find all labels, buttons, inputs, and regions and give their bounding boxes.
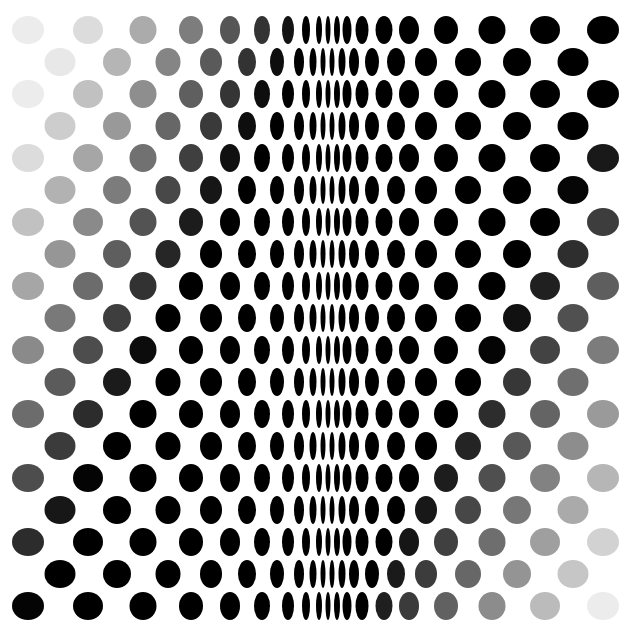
dot bbox=[294, 304, 304, 332]
dot bbox=[310, 48, 317, 76]
dot bbox=[302, 400, 310, 428]
dot bbox=[316, 16, 322, 44]
dot bbox=[130, 80, 157, 108]
dot bbox=[339, 176, 346, 204]
dot bbox=[387, 432, 405, 460]
dot bbox=[503, 176, 531, 204]
dot bbox=[387, 496, 405, 524]
dot bbox=[302, 592, 310, 620]
dot bbox=[73, 272, 103, 300]
dot bbox=[479, 400, 506, 428]
dot bbox=[45, 304, 76, 332]
dot bbox=[310, 176, 317, 204]
dot bbox=[200, 368, 222, 396]
dot bbox=[73, 336, 103, 364]
dot bbox=[200, 304, 222, 332]
dot bbox=[587, 400, 619, 428]
dot bbox=[558, 304, 589, 332]
dot bbox=[349, 112, 359, 140]
dot bbox=[415, 560, 437, 588]
op-art-artwork: Op-art dot field bbox=[0, 0, 637, 632]
dot bbox=[376, 592, 393, 620]
dot bbox=[349, 176, 359, 204]
dot bbox=[45, 48, 76, 76]
dot bbox=[558, 240, 589, 268]
dot bbox=[45, 560, 76, 588]
dot bbox=[270, 48, 284, 76]
dot bbox=[220, 208, 240, 236]
dot bbox=[455, 496, 481, 524]
dot bbox=[349, 496, 359, 524]
dot bbox=[254, 80, 270, 108]
dot bbox=[238, 176, 256, 204]
dot bbox=[321, 432, 326, 460]
dot bbox=[220, 80, 240, 108]
dot bbox=[156, 240, 181, 268]
dot bbox=[103, 176, 131, 204]
dot bbox=[530, 336, 560, 364]
dot bbox=[254, 208, 270, 236]
dot bbox=[220, 16, 240, 44]
dot bbox=[103, 496, 131, 524]
dot bbox=[156, 496, 181, 524]
dot bbox=[399, 464, 419, 492]
dot bbox=[45, 240, 76, 268]
dot bbox=[321, 48, 326, 76]
dot bbox=[530, 528, 560, 556]
dot bbox=[356, 272, 369, 300]
dot bbox=[220, 336, 240, 364]
dot bbox=[343, 144, 352, 172]
dot bbox=[45, 432, 76, 460]
dot bbox=[156, 432, 181, 460]
dot bbox=[156, 304, 181, 332]
dot bbox=[455, 112, 481, 140]
dot bbox=[343, 16, 352, 44]
dot bbox=[238, 48, 256, 76]
dot bbox=[343, 208, 352, 236]
dot bbox=[282, 144, 294, 172]
dot bbox=[330, 48, 335, 76]
dot bbox=[316, 464, 322, 492]
dot bbox=[558, 560, 589, 588]
dot bbox=[310, 432, 317, 460]
dot bbox=[321, 112, 326, 140]
dot bbox=[558, 112, 589, 140]
dot bbox=[479, 208, 506, 236]
dot bbox=[334, 400, 340, 428]
dot bbox=[349, 240, 359, 268]
dot bbox=[356, 80, 369, 108]
dot bbox=[103, 48, 131, 76]
dot bbox=[200, 112, 222, 140]
dot bbox=[415, 176, 437, 204]
dot bbox=[365, 240, 379, 268]
dot bbox=[270, 496, 284, 524]
dot bbox=[254, 272, 270, 300]
dot bbox=[455, 304, 481, 332]
dot bbox=[365, 112, 379, 140]
dot bbox=[530, 400, 560, 428]
dot bbox=[179, 400, 203, 428]
dot bbox=[330, 496, 335, 524]
dot bbox=[326, 528, 331, 556]
dot bbox=[238, 112, 256, 140]
dot bbox=[12, 400, 44, 428]
dot bbox=[376, 208, 393, 236]
dot bbox=[365, 432, 379, 460]
dot bbox=[103, 240, 131, 268]
dot bbox=[503, 112, 531, 140]
dot bbox=[587, 80, 619, 108]
dot bbox=[310, 304, 317, 332]
dot bbox=[334, 592, 340, 620]
dot bbox=[310, 368, 317, 396]
dot bbox=[130, 400, 157, 428]
dot bbox=[294, 176, 304, 204]
dot bbox=[349, 368, 359, 396]
dot bbox=[479, 144, 506, 172]
dot bbox=[326, 336, 331, 364]
dot bbox=[294, 560, 304, 588]
dot bbox=[179, 80, 203, 108]
dot bbox=[530, 464, 560, 492]
dot bbox=[220, 144, 240, 172]
dot bbox=[270, 560, 284, 588]
dot bbox=[587, 336, 619, 364]
